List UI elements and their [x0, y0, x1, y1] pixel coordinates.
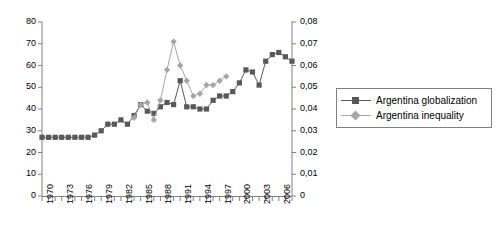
x-axis-tick-label: 1970 — [46, 184, 55, 204]
series-marker-diamond — [190, 93, 196, 99]
y-axis-left-tick-label: 60 — [8, 61, 36, 70]
series-marker-square — [211, 98, 216, 103]
series-marker-diamond — [144, 99, 150, 105]
legend-item-inequality[interactable]: Argentina inequality — [341, 108, 486, 123]
series-marker-diamond — [170, 38, 176, 44]
y-axis-right-tick-label: 0,01 — [300, 169, 318, 178]
x-axis-tick-label: 2003 — [263, 184, 272, 204]
legend-label-globalization: Argentina globalization — [376, 95, 477, 106]
y-axis-left-tick-label: 10 — [8, 169, 36, 178]
x-axis-tick-label: 1994 — [204, 184, 213, 204]
legend-item-globalization[interactable]: Argentina globalization — [341, 93, 486, 108]
y-axis-left-tick-label: 80 — [8, 17, 36, 26]
series-marker-square — [224, 93, 229, 98]
x-axis-tick-label: 1976 — [85, 184, 94, 204]
x-axis-tick-label: 2006 — [283, 184, 292, 204]
x-axis-tick-label: 1988 — [164, 184, 173, 204]
series-marker-square — [171, 102, 176, 107]
series-marker-square — [243, 67, 248, 72]
y-axis-right-tick-label: 0,06 — [300, 61, 318, 70]
x-axis-tick-label: 1982 — [125, 184, 134, 204]
y-axis-right-tick-label: 0,07 — [300, 39, 318, 48]
y-axis-right-tick-label: 0,08 — [300, 17, 318, 26]
series-marker-square — [270, 52, 275, 57]
y-axis-right-tick-label: 0,02 — [300, 148, 318, 157]
series-marker-square — [276, 50, 281, 55]
x-axis-tick-label: 1985 — [145, 184, 154, 204]
series-marker-square — [72, 135, 77, 140]
y-axis-left-tick-label: 50 — [8, 82, 36, 91]
series-marker-square — [99, 128, 104, 133]
y-axis-right-tick-label: 0,05 — [300, 82, 318, 91]
series-marker-square — [237, 80, 242, 85]
series-marker-square — [178, 78, 183, 83]
series-marker-square — [283, 54, 288, 59]
series-marker-square — [59, 135, 64, 140]
series-marker-square — [118, 117, 123, 122]
y-axis-right-tick-label: 0,04 — [300, 104, 318, 113]
series-marker-diamond — [216, 78, 222, 84]
series-marker-diamond — [151, 117, 157, 123]
series-marker-diamond — [184, 78, 190, 84]
series-marker-square — [53, 135, 58, 140]
legend-marker-square-icon — [341, 95, 371, 106]
x-axis-tick-label: 1973 — [66, 184, 75, 204]
y-axis-left-tick-label: 70 — [8, 39, 36, 48]
series-marker-square — [46, 135, 51, 140]
series-marker-square — [204, 106, 209, 111]
series-marker-diamond — [223, 73, 229, 79]
series-marker-square — [164, 100, 169, 105]
series-marker-diamond — [164, 67, 170, 73]
series-marker-square — [86, 135, 91, 140]
chart-legend: Argentina globalization Argentina inequa… — [336, 88, 492, 128]
y-axis-left-tick-label: 40 — [8, 104, 36, 113]
series-marker-square — [263, 59, 268, 64]
series-marker-square — [105, 122, 110, 127]
legend-label-inequality: Argentina inequality — [376, 110, 464, 121]
series-marker-square — [92, 133, 97, 138]
series-marker-square — [197, 106, 202, 111]
series-marker-diamond — [177, 62, 183, 68]
series-marker-diamond — [210, 82, 216, 88]
series-marker-square — [230, 89, 235, 94]
y-axis-left-tick-label: 0 — [8, 191, 36, 200]
series-marker-square — [66, 135, 71, 140]
y-axis-right-tick-label: 0 — [300, 191, 305, 200]
x-axis-tick-label: 1979 — [105, 184, 114, 204]
x-axis-tick-label: 1991 — [184, 184, 193, 204]
series-marker-square — [112, 122, 117, 127]
series-marker-square — [125, 122, 130, 127]
series-marker-square — [250, 69, 255, 74]
chart-container: 01020304050607080 00,010,020,030,040,050… — [0, 0, 503, 241]
y-axis-right-tick-label: 0,03 — [300, 126, 318, 135]
series-marker-square — [145, 109, 150, 114]
series-marker-square — [39, 135, 44, 140]
series-marker-diamond — [157, 97, 163, 103]
x-axis-tick-label: 2000 — [243, 184, 252, 204]
series-marker-square — [217, 93, 222, 98]
series-marker-square — [289, 59, 294, 64]
series-marker-square — [257, 83, 262, 88]
series-marker-square — [184, 104, 189, 109]
series-marker-square — [191, 104, 196, 109]
y-axis-left-tick-label: 20 — [8, 148, 36, 157]
y-axis-left-tick-label: 30 — [8, 126, 36, 135]
x-axis-tick-label: 1997 — [224, 184, 233, 204]
series-marker-square — [79, 135, 84, 140]
legend-marker-diamond-icon — [341, 110, 371, 121]
series-line-globalization — [42, 53, 292, 138]
